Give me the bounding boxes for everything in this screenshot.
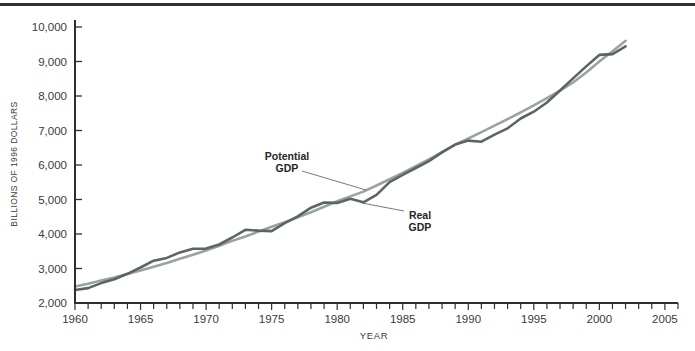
x-axis-title: YEAR: [360, 330, 388, 341]
real-gdp-label-line1: Real: [409, 209, 432, 221]
y-tick-label: 10,000: [32, 21, 67, 33]
real-gdp-line: [75, 46, 626, 290]
real-gdp-label: Real GDP: [409, 209, 432, 233]
potential-gdp-label-line1: Potential: [265, 150, 309, 162]
x-tick-label: 1990: [455, 313, 481, 325]
gdp-line-chart: 2,0003,0004,0005,0006,0007,0008,0009,000…: [0, 0, 695, 351]
y-tick-label: 6,000: [38, 159, 67, 171]
y-tick-label: 9,000: [38, 56, 67, 68]
potential-gdp-label-line2: GDP: [265, 162, 309, 174]
x-tick-label: 1975: [259, 313, 285, 325]
real-gdp-callout-line: [362, 203, 404, 211]
potential-gdp-label: Potential GDP: [265, 150, 309, 174]
y-tick-label: 7,000: [38, 125, 67, 137]
y-tick-label: 2,000: [38, 297, 67, 309]
y-tick-label: 4,000: [38, 228, 67, 240]
x-tick-label: 1970: [193, 313, 219, 325]
y-axis-title: BILLIONS OF 1996 DOLLARS: [9, 101, 19, 226]
x-tick-label: 1980: [324, 313, 350, 325]
potential-gdp-line: [75, 41, 626, 287]
x-tick-label: 1985: [390, 313, 416, 325]
x-tick-label: 1995: [521, 313, 547, 325]
y-tick-label: 5,000: [38, 194, 67, 206]
potential-gdp-callout-line: [302, 171, 366, 190]
x-tick-label: 1960: [62, 313, 88, 325]
x-tick-label: 2000: [587, 313, 613, 325]
textbook-figure-page: 2,0003,0004,0005,0006,0007,0008,0009,000…: [0, 0, 695, 351]
x-tick-label: 2005: [652, 313, 678, 325]
y-tick-label: 3,000: [38, 263, 67, 275]
x-tick-label: 1965: [128, 313, 154, 325]
real-gdp-label-line2: GDP: [409, 221, 432, 233]
y-tick-label: 8,000: [38, 90, 67, 102]
